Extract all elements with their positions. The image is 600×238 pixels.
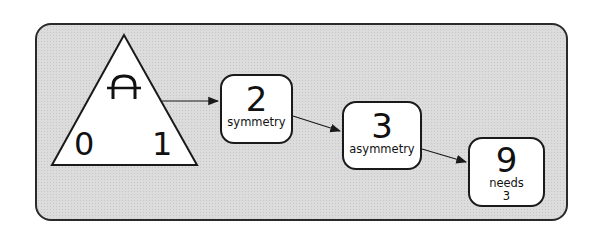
node-2: 2 symmetry — [220, 74, 293, 144]
root-right-label: 1 — [152, 128, 172, 160]
node-label: symmetry — [222, 116, 291, 129]
node-label: asymmetry — [344, 143, 420, 156]
edge-3-to-9 — [422, 149, 466, 162]
node-label-line2: 3 — [470, 190, 543, 203]
node-3: 3 asymmetry — [342, 101, 422, 170]
node-value: 3 — [344, 109, 420, 143]
root-left-label: 0 — [74, 128, 94, 160]
node-9: 9 needs 3 — [468, 137, 545, 207]
edge-2-to-3 — [293, 116, 340, 131]
node-value: 9 — [470, 143, 543, 177]
node-value: 2 — [222, 82, 291, 116]
